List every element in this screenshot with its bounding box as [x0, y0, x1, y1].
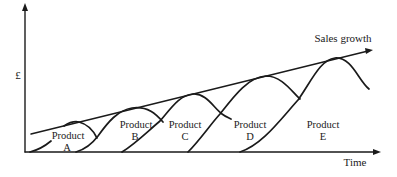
product-a-label: Product — [52, 130, 85, 141]
y-axis-label: £ — [15, 69, 21, 81]
product-b-label: Product — [120, 119, 153, 130]
product-e-letter: E — [320, 131, 326, 142]
product-c-label: Product — [169, 119, 202, 130]
product-a-letter: A — [63, 142, 71, 153]
product-b-letter: B — [131, 131, 138, 142]
sales-growth-diagram: £ Time Sales growth Product A Product B … — [0, 0, 397, 177]
x-axis-arrow-icon — [373, 149, 381, 155]
product-d-letter: D — [246, 131, 254, 142]
product-e-curve — [240, 58, 369, 152]
product-d-label: Product — [234, 119, 267, 130]
product-c-letter: C — [181, 131, 188, 142]
product-a-curve-rise — [30, 141, 51, 152]
x-axis-label: Time — [344, 156, 367, 168]
sales-growth-arrow-icon — [365, 48, 373, 54]
product-e-label: Product — [307, 119, 340, 130]
y-axis-arrow-icon — [22, 3, 28, 11]
sales-growth-label: Sales growth — [314, 32, 372, 44]
product-d-curve — [188, 76, 300, 152]
